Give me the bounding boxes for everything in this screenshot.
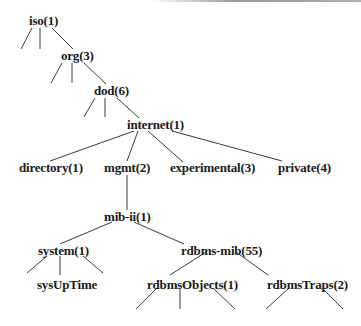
edge-iso-stub — [21, 28, 32, 49]
node-rdbmsobjects: rdbmsObjects(1) — [147, 278, 238, 292]
edge-org-stub — [51, 63, 62, 83]
edge-system-stub — [83, 256, 103, 273]
node-system: system(1) — [38, 244, 89, 258]
node-sysuptime: sysUpTime — [37, 278, 97, 292]
node-private: private(4) — [278, 161, 331, 175]
node-internet: internet(1) — [127, 118, 184, 132]
node-org: org(3) — [61, 49, 94, 63]
edge-internet-private — [172, 131, 282, 161]
node-mgmt: mgmt(2) — [104, 161, 150, 175]
edge-iso-org — [52, 28, 73, 49]
edge-internet-mgmt — [127, 131, 138, 161]
node-directory: directory(1) — [19, 161, 83, 175]
node-mib-ii: mib-ii(1) — [104, 210, 151, 224]
node-iso: iso(1) — [29, 14, 58, 28]
node-rdbms-mib: rdbms-mib(55) — [181, 244, 262, 258]
edge-dod-internet — [117, 98, 139, 118]
edge-internet-experimental — [148, 131, 183, 162]
edge-dod-stub — [84, 98, 95, 117]
node-rdbmstraps: rdbmsTraps(2) — [267, 278, 348, 292]
node-dod: dod(6) — [94, 84, 129, 98]
mib-tree-diagram: iso(1) org(3) dod(6) internet(1) directo… — [0, 0, 361, 326]
node-experimental: experimental(3) — [170, 161, 255, 175]
edge-org-dod — [84, 63, 106, 84]
edge-mib-ii-rdbms-mib — [134, 222, 184, 244]
edge-internet-directory — [50, 131, 134, 161]
edge-mib-ii-system — [60, 222, 112, 244]
edge-system-stub — [27, 256, 47, 273]
